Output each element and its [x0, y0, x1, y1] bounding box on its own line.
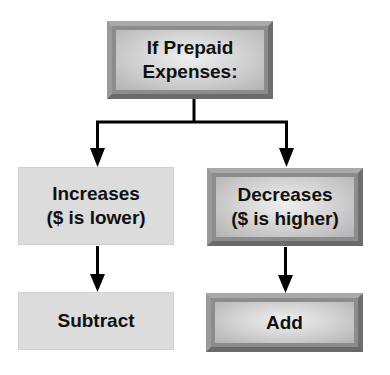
subtract-node-label: Subtract [57, 309, 134, 333]
arrow-down-icon [90, 148, 105, 167]
increases-node-line1: Increases [46, 182, 145, 206]
decreases-node: Decreases ($ is higher) [207, 168, 363, 246]
prepaid-expenses-flowchart: If Prepaid Expenses: Increases ($ is low… [0, 0, 390, 375]
root-node-prepaid-expenses: If Prepaid Expenses: [107, 21, 273, 99]
arrow-down-icon [279, 148, 294, 167]
arrow-down-icon [278, 275, 293, 293]
arrow-down-icon [90, 274, 105, 292]
decreases-node-line2: ($ is higher) [231, 207, 339, 231]
increases-node-line2: ($ is lower) [46, 206, 145, 230]
decreases-node-line1: Decreases [231, 183, 339, 207]
root-node-line1: If Prepaid [142, 36, 237, 60]
root-node-line2: Expenses: [142, 60, 237, 84]
add-node: Add [206, 293, 363, 352]
add-node-label: Add [266, 311, 303, 335]
increases-node: Increases ($ is lower) [18, 167, 174, 245]
subtract-node: Subtract [18, 292, 174, 350]
